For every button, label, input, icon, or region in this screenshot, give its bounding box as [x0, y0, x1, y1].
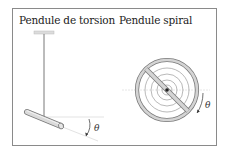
pivot-hub — [165, 88, 169, 92]
angle-label-torsion: θ — [94, 123, 100, 133]
spiral-pendulum: θ — [122, 60, 211, 120]
torsion-pendulum: θ — [27, 31, 104, 141]
diagram-canvas: θ θ — [0, 0, 230, 155]
displaced-reference-line — [60, 126, 98, 141]
angle-label-spiral: θ — [205, 100, 211, 110]
ceiling-mount — [34, 31, 54, 34]
torsion-rod — [27, 111, 64, 130]
